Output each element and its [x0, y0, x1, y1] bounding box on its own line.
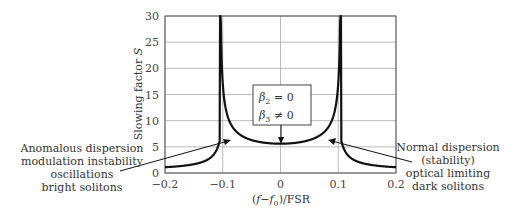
y-tick-label: 15 [145, 89, 159, 102]
x-tick-label: 0.1 [330, 178, 348, 191]
beta-annotation-box: β2 = 0 β3 ≠ 0 [253, 85, 311, 144]
right-annotation-line-3: optical limiting [406, 167, 490, 180]
left-arrow-head [223, 139, 231, 145]
x-axis-ticks: −0.2−0.100.10.2 [152, 178, 405, 191]
x-tick-label: 0.2 [387, 178, 405, 191]
left-annotation-line-3: oscillations [51, 168, 114, 181]
left-annotation-line-2: modulation instability [21, 155, 144, 168]
y-tick-label: 25 [145, 36, 159, 49]
y-tick-label: 5 [152, 141, 159, 154]
right-annotation-line-4: dark solitons [412, 180, 484, 193]
right-annotation-line-2: (stability) [421, 154, 474, 167]
beta2-label: β2 = 0 [258, 91, 294, 106]
y-axis-label: Slowing factor S [132, 47, 145, 140]
x-axis-label: (f−f0)/FSR [252, 193, 311, 208]
x-tick-label: −0.1 [209, 178, 236, 191]
y-tick-label: 20 [145, 62, 159, 75]
slowing-factor-chart: 051015202530 −0.2−0.100.10.2 Slowing fac… [0, 0, 507, 214]
y-tick-label: 10 [145, 115, 159, 128]
right-arrow-head [328, 138, 336, 145]
y-axis-ticks: 051015202530 [145, 10, 159, 180]
x-tick-label: 0 [277, 178, 284, 191]
beta3-label: β3 ≠ 0 [258, 109, 294, 124]
right-annotation-line-1: Normal dispersion [396, 141, 499, 154]
x-tick-label: −0.2 [152, 178, 179, 191]
anomalous-dispersion-annotation: Anomalous dispersion modulation instabil… [20, 139, 231, 194]
left-annotation-line-1: Anomalous dispersion [20, 142, 144, 155]
y-tick-label: 30 [145, 10, 159, 23]
normal-dispersion-annotation: Normal dispersion (stability) optical li… [328, 138, 500, 193]
left-annotation-line-4: bright solitons [42, 181, 123, 194]
